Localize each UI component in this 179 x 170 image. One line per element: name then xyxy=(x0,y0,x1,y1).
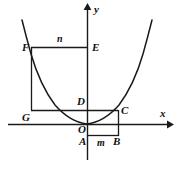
x-axis-label: x xyxy=(160,108,166,119)
rectangle-fedg xyxy=(31,47,118,111)
x-axis-arrowhead xyxy=(167,121,174,129)
point-label-f: F xyxy=(22,42,29,53)
point-label-g: G xyxy=(22,112,30,123)
y-axis-arrowhead xyxy=(84,3,92,10)
point-label-o: O xyxy=(78,124,86,135)
geometry-figure: F E D G C O A B n m y x xyxy=(0,0,179,170)
point-label-e: E xyxy=(92,42,99,53)
diagram-canvas xyxy=(0,0,179,170)
x-axis xyxy=(8,121,174,129)
y-axis-label: y xyxy=(94,4,99,15)
segment-label-n: n xyxy=(57,33,63,44)
point-label-d: D xyxy=(77,96,85,107)
point-label-b: B xyxy=(113,136,120,147)
point-label-c: C xyxy=(121,105,128,116)
segment-label-m: m xyxy=(97,137,105,148)
point-label-a: A xyxy=(79,136,86,147)
